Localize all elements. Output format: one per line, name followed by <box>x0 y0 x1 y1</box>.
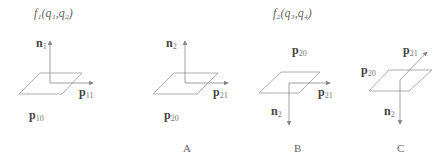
label-n2: n2 <box>166 36 177 51</box>
title-f2: f₂(q₃,q₄) <box>273 6 312 21</box>
label-p21: p21 <box>213 85 228 100</box>
plane <box>369 70 432 91</box>
caption-B: B <box>294 142 301 154</box>
caption-C: C <box>397 142 404 154</box>
label-p11: p11 <box>79 85 93 100</box>
diagram-canvas <box>0 0 447 164</box>
label-n1: n1 <box>36 36 47 51</box>
title-f1: f₁(q₁,q₂) <box>34 6 73 21</box>
label-n2: n2 <box>271 104 282 119</box>
caption-A: A <box>183 142 191 154</box>
label-p21: p21 <box>403 43 418 58</box>
plane <box>259 72 320 93</box>
plane <box>153 73 218 94</box>
label-p10: p10 <box>29 108 44 123</box>
label-p20: p20 <box>361 63 376 78</box>
label-p20: p20 <box>164 108 179 123</box>
label-p21: p21 <box>318 85 333 100</box>
label-p20: p20 <box>292 43 307 58</box>
plane <box>19 73 82 94</box>
label-n2: n2 <box>384 104 395 119</box>
figure-C <box>369 52 432 124</box>
